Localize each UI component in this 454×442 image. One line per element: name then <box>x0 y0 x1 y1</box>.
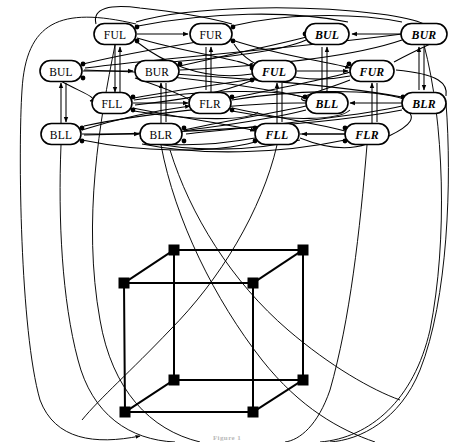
node-label: BLL <box>315 97 339 111</box>
figure-container: FULFURBULBURBULBURFULFURFLLFLRBLLBLRBLLB… <box>0 0 454 442</box>
graph-node-fll-r3[interactable]: FLL <box>92 93 132 114</box>
node-label: FLL <box>101 98 122 110</box>
cube-vertex-btl[interactable] <box>169 245 179 255</box>
cube-diagram <box>119 245 308 417</box>
node-label: FUR <box>359 65 385 79</box>
graph-node-flr-r3[interactable]: FLR <box>189 93 231 114</box>
graph-node-fur-r1[interactable]: FUR <box>190 24 232 45</box>
graph-node-blr-r4[interactable]: BLR <box>140 124 182 145</box>
graph-node-flr-r4[interactable]: FLR <box>345 124 389 145</box>
cube-vertex-fbl[interactable] <box>120 407 130 417</box>
wrap-edge-left-inner <box>60 145 175 442</box>
cube-vertex-bbr[interactable] <box>298 375 308 385</box>
top-arc-edges <box>95 7 424 26</box>
cube-vertex-bbl[interactable] <box>169 375 179 385</box>
wrap-edge-diag-c <box>170 150 400 400</box>
graph-node-bll-r3[interactable]: BLL <box>306 93 348 114</box>
node-label: BUL <box>314 28 339 42</box>
node-label: BLR <box>150 129 173 141</box>
graph-node-bul-r2[interactable]: BUL <box>40 61 82 82</box>
node-label: FLR <box>199 98 221 110</box>
node-label: BUR <box>411 28 437 42</box>
node-label: BUL <box>49 66 73 78</box>
cube-vertex-ftl[interactable] <box>119 278 129 288</box>
cube-edge-ftl-fbl <box>124 283 125 412</box>
wrap-edge-right-inner <box>330 103 448 442</box>
node-label: FUR <box>200 29 223 41</box>
cube-vertex-btr[interactable] <box>298 245 308 255</box>
graph-node-bll-r4[interactable]: BLL <box>41 124 81 145</box>
node-label: FLR <box>354 128 379 142</box>
node-label: FUL <box>261 65 286 79</box>
wrap-edge-left-outer <box>20 17 140 440</box>
node-label: FLL <box>265 128 289 142</box>
graph-node-blr-r3[interactable]: BLR <box>402 93 446 114</box>
node-label: FUL <box>104 29 126 41</box>
node-label: BUR <box>145 66 169 78</box>
node-label: BLL <box>50 129 72 141</box>
graph-node-fll-r4[interactable]: FLL <box>255 124 299 145</box>
cube-vertex-ftr[interactable] <box>248 278 258 288</box>
graph-node-bur-r1[interactable]: BUR <box>401 24 447 45</box>
graph-node-bur-r2[interactable]: BUR <box>135 61 179 82</box>
cube-edge-bbl-fbl <box>125 380 174 412</box>
cube-vertex-fbr[interactable] <box>248 407 258 417</box>
wrap-edge-diag-a <box>161 145 375 442</box>
graph-node-bul-r1[interactable]: BUL <box>305 24 349 45</box>
figure-caption: Figure 1 <box>0 434 454 442</box>
node-label: BLR <box>411 97 436 111</box>
cube-edge-btl-ftl <box>124 250 174 283</box>
figure-graphic: FULFURBULBURBULBURFULFURFLLFLRBLLBLRBLLB… <box>0 0 454 442</box>
graph-node-fur-r2[interactable]: FUR <box>350 61 394 82</box>
arc-r1c1-r1c4 <box>136 8 424 24</box>
graph-node-ful-r1[interactable]: FUL <box>94 24 136 45</box>
cube-edge-btr-ftr <box>253 250 303 283</box>
graph-node-ful-r2[interactable]: FUL <box>252 61 296 82</box>
